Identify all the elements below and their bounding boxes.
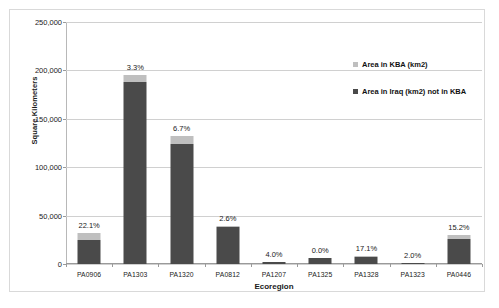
bar-segment-not-kba[interactable] [401, 263, 424, 264]
bar-segment-not-kba[interactable] [216, 227, 239, 264]
x-tick-mark [482, 264, 483, 267]
x-tick-mark [436, 264, 437, 267]
bar-segment-not-kba[interactable] [124, 82, 147, 264]
bar-stack[interactable] [216, 226, 239, 264]
bar-group[interactable]: 2.6%PA0812 [205, 22, 251, 264]
x-tick-label: PA0446 [447, 271, 471, 278]
y-tick-label: 0 [14, 260, 62, 269]
legend-entry[interactable]: Area in Iraq (km2) not in KBA [353, 87, 483, 97]
bar-group[interactable]: 3.3%PA1303 [112, 22, 158, 264]
x-tick-mark [251, 264, 252, 267]
bar-data-label: 17.1% [356, 244, 377, 253]
x-tick-label: PA0906 [77, 271, 101, 278]
x-tick-label: PA1303 [123, 271, 147, 278]
x-tick-label: PA1323 [401, 271, 425, 278]
y-tick-label: 200,000 [14, 66, 62, 75]
bar-group[interactable]: 22.1%PA0906 [66, 22, 112, 264]
plot-area: 050,000100,000150,000200,000250,000 22.1… [66, 22, 482, 264]
x-tick-label: PA0812 [216, 271, 240, 278]
bar-segment-not-kba[interactable] [262, 262, 285, 264]
bar-segment-not-kba[interactable] [355, 257, 378, 264]
bar-data-label: 22.1% [78, 221, 99, 230]
bar-group[interactable]: 2.0%PA1323 [390, 22, 436, 264]
x-axis-title: Ecoregion [66, 282, 482, 291]
x-tick-mark [205, 264, 206, 267]
bar-series-group: 22.1%PA09063.3%PA13036.7%PA13202.6%PA081… [66, 22, 482, 264]
chart-legend: Area in KBA (km2)Area in Iraq (km2) not … [353, 60, 483, 114]
bar-data-label: 15.2% [448, 223, 469, 232]
bar-stack[interactable] [262, 262, 285, 264]
bar-data-label: 2.6% [219, 214, 236, 223]
bar-segment-not-kba[interactable] [170, 144, 193, 264]
bar-segment-kba[interactable] [78, 233, 101, 240]
bar-data-label: 6.7% [173, 124, 190, 133]
chart-frame: Square Kilometers 050,000100,000150,0002… [9, 9, 485, 292]
x-tick-mark [390, 264, 391, 267]
bar-stack[interactable] [355, 256, 378, 264]
bar-stack[interactable] [401, 263, 424, 264]
bar-group[interactable]: 0.0%PA1325 [297, 22, 343, 264]
bar-stack[interactable] [447, 235, 470, 264]
bar-segment-not-kba[interactable] [309, 258, 332, 264]
y-tick-label: 100,000 [14, 163, 62, 172]
x-tick-mark [158, 264, 159, 267]
bar-group[interactable]: 4.0%PA1207 [251, 22, 297, 264]
bar-data-label: 2.0% [404, 251, 421, 260]
bar-segment-not-kba[interactable] [447, 239, 470, 264]
x-tick-label: PA1328 [354, 271, 378, 278]
y-tick-label: 150,000 [14, 114, 62, 123]
x-tick-label: PA1207 [262, 271, 286, 278]
x-tick-mark [343, 264, 344, 267]
legend-entry[interactable]: Area in KBA (km2) [353, 60, 483, 70]
legend-swatch-icon [353, 89, 358, 94]
bar-group[interactable]: 6.7%PA1320 [158, 22, 204, 264]
bar-data-label: 4.0% [265, 250, 282, 259]
bar-stack[interactable] [170, 136, 193, 264]
bar-data-label: 3.3% [127, 63, 144, 72]
bar-stack[interactable] [309, 258, 332, 264]
x-tick-label: PA1325 [308, 271, 332, 278]
x-tick-mark [297, 264, 298, 267]
legend-label: Area in KBA (km2) [362, 60, 428, 70]
legend-swatch-icon [353, 62, 358, 67]
y-tick-label: 50,000 [14, 211, 62, 220]
legend-label: Area in Iraq (km2) not in KBA [362, 87, 466, 97]
bar-data-label: 0.0% [312, 246, 329, 255]
bar-stack[interactable] [78, 233, 101, 264]
bar-segment-not-kba[interactable] [78, 240, 101, 264]
bar-segment-kba[interactable] [170, 136, 193, 145]
x-tick-mark [66, 264, 67, 267]
bar-stack[interactable] [124, 75, 147, 264]
bar-group[interactable]: 17.1%PA1328 [343, 22, 389, 264]
y-tick-label: 250,000 [14, 18, 62, 27]
gridline [66, 264, 482, 265]
x-tick-label: PA1320 [169, 271, 193, 278]
x-tick-mark [112, 264, 113, 267]
bar-group[interactable]: 15.2%PA0446 [436, 22, 482, 264]
y-axis-title: Square Kilometers [30, 41, 39, 181]
